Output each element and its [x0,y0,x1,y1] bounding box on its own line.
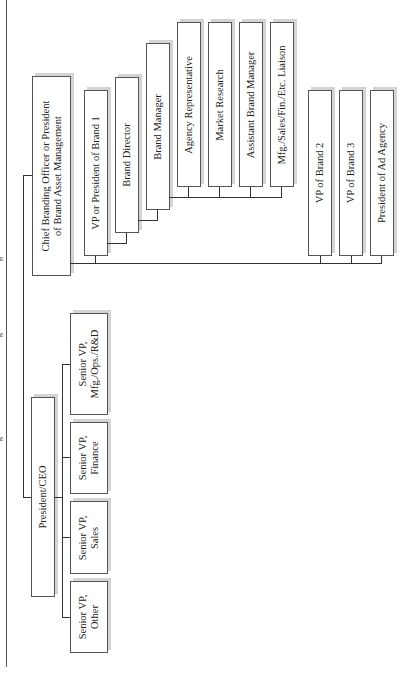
market-research-box[interactable]: Market Research [208,22,232,187]
box-label: Assistant Brand Manager [245,51,257,158]
svp-finance-box[interactable]: Senior VP, Finance [70,422,108,494]
box-label: Brand Manager [152,94,164,160]
brand-manager-box[interactable]: Brand Manager [146,43,170,210]
stub-vp-brand3 [351,255,352,263]
trunk-to-president [23,497,31,498]
liaison-box[interactable]: Mfg./Sales/Fin./Etc. Liaison [270,22,294,187]
svp-sales-box[interactable]: Senior VP, Sales [70,501,108,574]
conn-brand-director [107,243,127,244]
conn-brand-manager [138,220,158,221]
bm-reports-horizontal [169,197,282,198]
stub-ad-agency [381,255,382,263]
box-label: Market Research [214,69,226,140]
agency-rep-box[interactable]: Agency Representative [177,22,201,187]
vp-brand3-box[interactable]: VP of Brand 3 [339,90,363,256]
stub-agency [188,186,189,197]
president-connector [54,497,62,498]
svp-mfg-box[interactable]: Senior VP, Mfg./Ops./R&D [70,313,108,415]
box-label: Mfg./Sales/Fin./Etc. Liaison [276,45,288,164]
left-rule [6,0,7,667]
ad-agency-president-box[interactable]: President of Ad Agency [370,90,394,256]
box-label: Chief Branding Officer or President of B… [40,101,64,252]
cbo-horizontal [70,263,382,264]
svp-spine [62,364,63,618]
box-label: Senior VP, Mfg./Ops./R&D [77,330,101,399]
box-label: VP of Brand 2 [314,143,326,204]
stub-abm [250,186,251,197]
stub-finance [62,457,70,458]
trunk-to-cbo [23,175,32,176]
stub-mfg [62,364,70,365]
stub-vp-brand2 [320,255,321,263]
svp-other-box[interactable]: Senior VP, Other [70,581,108,653]
box-label: VP of Brand 3 [345,143,357,204]
cbo-box[interactable]: Chief Branding Officer or President of B… [32,76,71,276]
vp-brand2-box[interactable]: VP of Brand 2 [308,90,332,256]
box-label: Agency Representative [183,56,195,154]
president-ceo-box[interactable]: President/CEO [31,397,55,597]
title-fragment: g [0,437,3,442]
vp-brand1-box[interactable]: VP or President of Brand 1 [84,90,108,256]
stub-vp-brand1 [95,255,96,263]
stub-sales [62,537,70,538]
box-label: President of Ad Agency [376,123,388,223]
conn-brand-manager-v [157,209,158,220]
box-label: Senior VP, Other [77,595,101,640]
box-label: Senior VP, Sales [77,515,101,560]
box-label: President/CEO [37,466,49,529]
stub-market [219,186,220,197]
stub-other [62,617,70,618]
box-label: Senior VP, Finance [77,436,101,481]
assistant-brand-manager-box[interactable]: Assistant Brand Manager [239,22,263,187]
stub-liaison [281,186,282,197]
title-fragment: g [0,257,3,262]
box-label: VP or President of Brand 1 [90,116,102,230]
conn-brand-director-v [126,232,127,243]
brand-director-box[interactable]: Brand Director [115,77,139,233]
title-fragment: g [0,333,3,338]
trunk-line [23,175,24,498]
box-label: Brand Director [121,123,133,186]
